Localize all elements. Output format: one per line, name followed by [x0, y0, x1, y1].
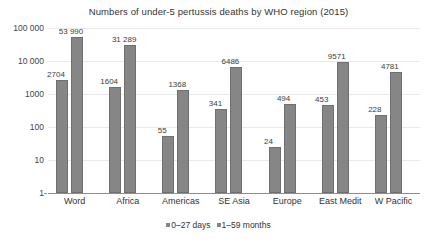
legend-entry[interactable]: 0–27 days: [166, 219, 210, 230]
bar-value-label: 453: [302, 95, 342, 104]
x-axis-line: [48, 193, 420, 194]
x-axis-tick-label: Americas: [162, 196, 200, 206]
y-axis-tick-mark: [44, 193, 47, 194]
bar-value-label: 6486: [210, 57, 250, 66]
x-axis-tick-label: SE Asia: [218, 196, 250, 206]
y-axis-tick-label: 10 000: [0, 56, 44, 66]
x-axis-tick-label: Word: [64, 196, 85, 206]
x-axis-tick-labels: WordAfricaAmericasSE AsiaEuropeEast Medi…: [48, 196, 420, 210]
y-axis-tick-labels: 110100100010 000100 000: [0, 28, 44, 193]
y-axis-tick-label: 1: [0, 188, 44, 198]
bar[interactable]: [269, 147, 281, 193]
bar-group: 24494: [261, 28, 314, 193]
chart-legend: 0–27 days1–59 months: [0, 219, 437, 230]
bar[interactable]: [230, 67, 242, 193]
bar-value-label: 24: [249, 137, 289, 146]
bar[interactable]: [390, 72, 402, 193]
bar-value-label: 55: [142, 126, 182, 135]
bar[interactable]: [109, 87, 121, 193]
bar-group: 2284781: [367, 28, 420, 193]
bar[interactable]: [215, 109, 227, 193]
bar-group: 270453 990: [48, 28, 101, 193]
chart-container: Numbers of under-5 pertussis deaths by W…: [0, 0, 437, 239]
bar[interactable]: [337, 62, 349, 193]
chart-title: Numbers of under-5 pertussis deaths by W…: [0, 6, 437, 17]
bar-value-label: 1368: [157, 80, 197, 89]
bar[interactable]: [322, 105, 334, 193]
x-axis-tick-label: Europe: [273, 196, 302, 206]
legend-label: 1–59 months: [222, 220, 271, 230]
plot-area: 270453 990160431 28955136834164862449445…: [48, 28, 420, 193]
bar-value-label: 341: [195, 99, 235, 108]
bar[interactable]: [177, 90, 189, 193]
y-axis-tick-label: 1000: [0, 89, 44, 99]
bar-value-label: 4781: [370, 62, 410, 71]
bar-value-label: 9571: [317, 52, 357, 61]
legend-entry[interactable]: 1–59 months: [217, 219, 271, 230]
bar[interactable]: [162, 136, 174, 193]
legend-swatch-icon: [217, 223, 221, 227]
bar-value-label: 53 990: [51, 27, 91, 36]
bar-group: 160431 289: [101, 28, 154, 193]
bar-group: 3416486: [207, 28, 260, 193]
bar-value-label: 1604: [89, 77, 129, 86]
x-axis-tick-label: East Medit: [319, 196, 362, 206]
x-axis-tick-label: W Pacific: [375, 196, 413, 206]
bar-value-label: 2704: [36, 70, 76, 79]
y-axis-tick-label: 10: [0, 155, 44, 165]
bar-value-label: 228: [355, 105, 395, 114]
bar-value-label: 31 289: [104, 35, 144, 44]
x-axis-tick-label: Africa: [116, 196, 139, 206]
bar[interactable]: [71, 37, 83, 193]
bar-value-label: 494: [264, 94, 304, 103]
bar[interactable]: [375, 115, 387, 193]
bar[interactable]: [56, 80, 68, 193]
legend-swatch-icon: [166, 223, 170, 227]
bar-group: 551368: [154, 28, 207, 193]
y-axis-tick-label: 100 000: [0, 23, 44, 33]
bar[interactable]: [284, 104, 296, 193]
legend-label: 0–27 days: [171, 220, 210, 230]
y-axis-tick-label: 100: [0, 122, 44, 132]
bar[interactable]: [124, 45, 136, 193]
